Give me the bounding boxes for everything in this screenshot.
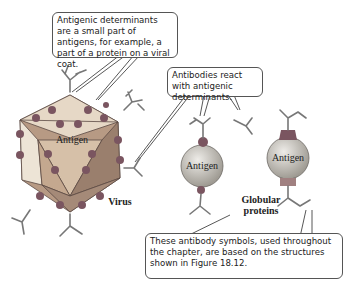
callout-antibody-symbols: These antibody symbols, used throughout …	[145, 233, 343, 279]
sphere1-antigen-label: Antigen	[182, 160, 222, 171]
callout-antigenic-determinants: Antigenic determinants are a small part …	[52, 12, 178, 58]
callout-antibodies-react: Antibodies react with antigenic determin…	[167, 67, 263, 97]
virus-antigen-label: Antigen	[52, 134, 92, 145]
antigen-diagram: Antigenic determinants are a small part …	[0, 0, 347, 283]
determinant-4	[280, 178, 296, 186]
virus-icon	[20, 95, 120, 212]
globular-proteins-label: Globular proteins	[236, 194, 286, 216]
virus-label: Virus	[102, 196, 138, 207]
sphere2-antigen-label: Antigen	[268, 152, 308, 163]
determinant-2	[197, 186, 205, 194]
determinant-3	[279, 130, 297, 140]
